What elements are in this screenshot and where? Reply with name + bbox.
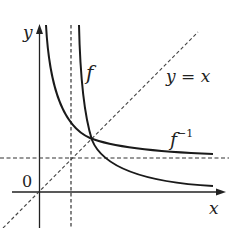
y-axis-arrow-icon bbox=[36, 24, 43, 34]
function-inverse-diagram: y x 0 f f−1 y = x bbox=[0, 0, 229, 228]
line-y-equals-x bbox=[3, 32, 198, 228]
origin-label: 0 bbox=[22, 172, 32, 191]
x-axis-label: x bbox=[209, 198, 219, 218]
curve-f bbox=[79, 25, 213, 186]
y-axis bbox=[36, 24, 43, 228]
identity-line-label: y = x bbox=[165, 66, 211, 86]
y-axis-label: y bbox=[22, 22, 33, 42]
x-axis bbox=[12, 189, 226, 196]
f-label: f bbox=[84, 61, 97, 85]
f-inverse-superscript: −1 bbox=[177, 127, 193, 140]
x-axis-arrow-icon bbox=[216, 189, 226, 196]
f-inverse-label: f−1 bbox=[168, 127, 193, 150]
